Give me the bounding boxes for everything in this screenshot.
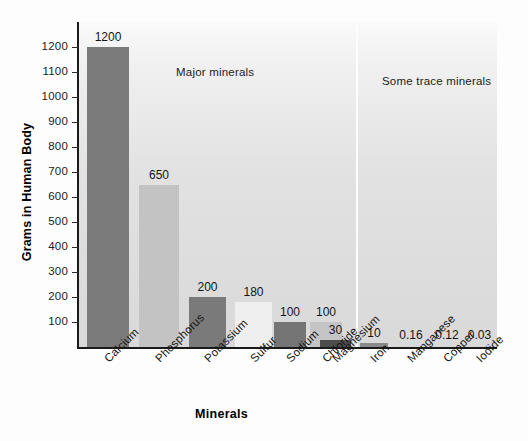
bar-value-label: 100 (300, 306, 352, 318)
bar-value-label: 650 (129, 169, 189, 181)
bar-calcium (87, 47, 129, 347)
bar-value-label: 180 (225, 286, 282, 298)
bar-phosphorus (139, 185, 179, 348)
y-axis-title: Grams in Human Body (20, 92, 34, 292)
bar-value-label: 1200 (77, 31, 139, 43)
x-axis-title: Minerals (195, 407, 248, 421)
bars-layer: 120065020018010010030100.160.120.03 (0, 0, 528, 348)
bar-chart: Major minerals Some trace minerals 10020… (0, 0, 528, 441)
